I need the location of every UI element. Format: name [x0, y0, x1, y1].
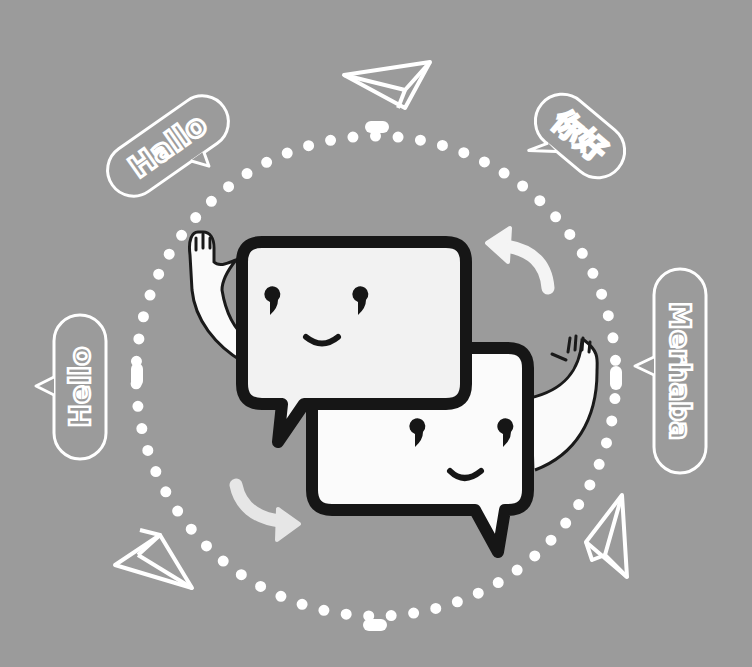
translation-illustration: Hallo 你好 Merhaba Hello [0, 0, 752, 667]
hello-text: Hello [64, 347, 97, 428]
speech-bubble-hallo: Hallo [97, 86, 246, 218]
hallo-text: Hallo [122, 106, 213, 184]
speech-bubble-nihao: 你好 [513, 83, 635, 202]
merhaba-text: Merhaba [663, 302, 696, 440]
paper-plane-icon [115, 530, 192, 588]
curved-arrow-icon [487, 228, 548, 288]
curved-arrow-icon [236, 485, 299, 540]
illustration-canvas: Hallo 你好 Merhaba Hello [0, 0, 752, 667]
paper-plane-icon [344, 62, 430, 108]
paper-plane-icon [586, 495, 627, 577]
speech-bubble-merhaba: Merhaba [635, 269, 706, 473]
nihao-text: 你好 [545, 103, 614, 169]
speech-bubble-hello: Hello [36, 315, 106, 459]
